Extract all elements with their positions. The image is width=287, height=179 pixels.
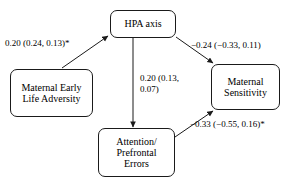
node-attention-prefrontal-errors: Attention/ Prefrontal Errors <box>98 128 175 177</box>
node-maternal-sensitivity-label: Maternal Sensitivity <box>224 76 267 98</box>
node-maternal-early-life-adversity: Maternal Early Life Adversity <box>10 69 93 117</box>
path-diagram: HPA axis Maternal Early Life Adversity M… <box>0 0 287 179</box>
edge-label-attention-to-sensitivity: −0.33 (−0.55, 0.16)* <box>190 119 287 130</box>
node-maternal-sensitivity: Maternal Sensitivity <box>211 64 280 110</box>
edge-label-hpa-to-attention: 0.20 (0.13, 0.07) <box>140 73 198 95</box>
node-attention-prefrontal-errors-label: Attention/ Prefrontal Errors <box>116 136 157 170</box>
node-hpa-axis: HPA axis <box>110 10 176 38</box>
node-maternal-early-life-adversity-label: Maternal Early Life Adversity <box>21 82 81 104</box>
edge-label-adversity-to-hpa: 0.20 (0.24, 0.13)* <box>5 38 99 49</box>
edge-label-hpa-to-sensitivity: −0.24 (−0.33, 0.11) <box>191 40 287 51</box>
node-hpa-axis-label: HPA axis <box>124 18 161 29</box>
